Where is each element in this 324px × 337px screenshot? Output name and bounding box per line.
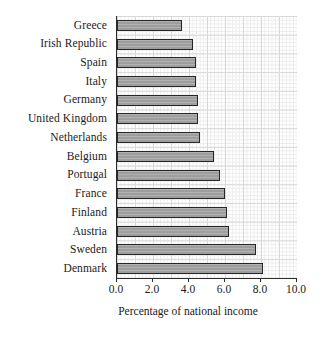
bar: [117, 170, 220, 181]
plot-area: [116, 16, 297, 278]
category-label: France: [0, 184, 112, 203]
bar: [117, 57, 196, 68]
bar-slot: [117, 184, 297, 203]
x-tick-mark: [296, 278, 297, 282]
bar-slot: [117, 128, 297, 147]
bar: [117, 20, 182, 31]
bar: [117, 39, 193, 50]
x-tick-mark: [224, 278, 225, 282]
bar-slot: [117, 166, 297, 185]
category-label: Denmark: [0, 259, 112, 278]
bars-layer: [117, 16, 297, 278]
bar-slot: [117, 222, 297, 241]
bar-slot: [117, 91, 297, 110]
x-tick-label: 6.0: [217, 284, 231, 296]
category-label: Finland: [0, 203, 112, 222]
bar-slot: [117, 53, 297, 72]
bar-slot: [117, 259, 297, 278]
bar: [117, 151, 214, 162]
x-tick-mark: [188, 278, 189, 282]
x-tick-mark: [152, 278, 153, 282]
category-label: Sweden: [0, 241, 112, 260]
category-label: Greece: [0, 16, 112, 35]
category-label: Germany: [0, 91, 112, 110]
bar-slot: [117, 203, 297, 222]
category-label: Spain: [0, 53, 112, 72]
bar: [117, 226, 229, 237]
x-tick-mark: [116, 278, 117, 282]
category-axis: GreeceIrish RepublicSpainItalyGermanyUni…: [0, 16, 112, 278]
category-label: Portugal: [0, 166, 112, 185]
x-axis-tick-labels: 0.02.04.06.08.010.0: [116, 284, 296, 300]
bar-slot: [117, 35, 297, 54]
category-label: Irish Republic: [0, 35, 112, 54]
x-axis-line: [116, 278, 297, 279]
bar-slot: [117, 110, 297, 129]
bar-slot: [117, 16, 297, 35]
x-tick-label: 10.0: [286, 284, 306, 296]
category-label: Netherlands: [0, 128, 112, 147]
category-label: Italy: [0, 72, 112, 91]
bar: [117, 188, 225, 199]
bar: [117, 263, 263, 274]
bar: [117, 76, 196, 87]
x-tick-label: 0.0: [109, 284, 123, 296]
bar: [117, 207, 227, 218]
category-label: Austria: [0, 222, 112, 241]
bar: [117, 113, 198, 124]
bar-slot: [117, 147, 297, 166]
x-tick-label: 2.0: [145, 284, 159, 296]
bar: [117, 132, 200, 143]
x-axis-title: Percentage of national income: [0, 306, 324, 318]
bar-chart: GreeceIrish RepublicSpainItalyGermanyUni…: [0, 0, 324, 337]
bar-slot: [117, 72, 297, 91]
x-tick-label: 4.0: [181, 284, 195, 296]
bar: [117, 244, 256, 255]
x-tick-mark: [260, 278, 261, 282]
category-label: Belgium: [0, 147, 112, 166]
category-label: United Kingdom: [0, 110, 112, 129]
bar: [117, 95, 198, 106]
bar-slot: [117, 241, 297, 260]
x-tick-label: 8.0: [253, 284, 267, 296]
